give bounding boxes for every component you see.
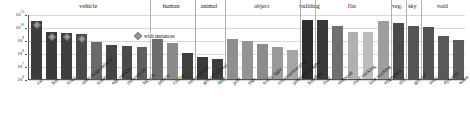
bar: [257, 44, 268, 79]
bar: [242, 41, 253, 79]
bar: [227, 39, 238, 79]
group-header: vehicle: [28, 2, 149, 10]
y-tick-label: 1010: [15, 25, 24, 31]
group-header: object: [224, 2, 299, 10]
group-header-row: vehiclehumananimalobjectbuildingflatveg.…: [0, 0, 468, 13]
legend-label: with instances: [144, 33, 175, 39]
bar: [423, 27, 434, 79]
y-axis: 10111010109108107106: [0, 15, 27, 80]
y-tick-mark: [25, 80, 27, 81]
y-tick-mark: [25, 15, 27, 16]
legend: with instances: [133, 33, 177, 39]
y-tick-label: 106: [17, 77, 24, 83]
bar: [438, 36, 449, 79]
y-tick-mark: [25, 67, 27, 68]
group-header: human: [149, 2, 194, 10]
group-separator: [150, 0, 151, 80]
group-header: void: [420, 2, 465, 10]
y-tick-mark: [25, 28, 27, 29]
instance-marker-icon: [134, 32, 142, 40]
gridline: [29, 15, 465, 16]
y-tick-mark: [25, 54, 27, 55]
y-tick-label: 1011: [16, 12, 24, 18]
group-header: building: [299, 2, 314, 10]
group-header: flat: [314, 2, 389, 10]
group-separator: [406, 0, 407, 80]
x-axis-labels: carbustruckother large vehicletrailerego…: [28, 80, 465, 118]
group-header: sky: [405, 2, 420, 10]
y-tick-label: 107: [17, 64, 24, 70]
y-tick-mark: [25, 41, 27, 42]
group-header: animal: [194, 2, 224, 10]
y-tick-label: 108: [17, 51, 24, 57]
bar: [408, 26, 419, 79]
group-separator: [421, 0, 422, 80]
bar: [332, 26, 343, 79]
y-tick-label: 109: [17, 38, 24, 44]
group-header: veg.: [390, 2, 405, 10]
group-separator: [195, 0, 196, 80]
